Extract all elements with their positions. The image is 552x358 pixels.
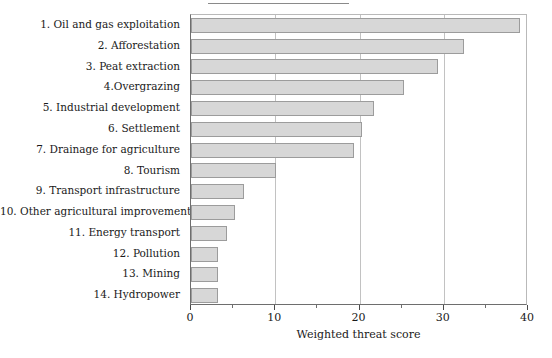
bar-row	[191, 57, 526, 78]
bar-row	[191, 98, 526, 119]
bar-row	[191, 140, 526, 161]
bar-row	[191, 244, 526, 265]
category-label: 4.Overgrazing	[0, 76, 185, 97]
bar	[191, 39, 464, 54]
bar-row	[191, 15, 526, 36]
bar-series	[191, 15, 526, 304]
category-label: 13. Mining	[0, 263, 185, 284]
bar	[191, 267, 218, 282]
bar	[191, 18, 520, 33]
bar	[191, 59, 438, 74]
bar-row	[191, 264, 526, 285]
bar-row	[191, 202, 526, 223]
bar	[191, 80, 404, 95]
category-label: 6. Settlement	[0, 118, 185, 139]
x-tick-major	[190, 305, 191, 310]
category-label: 1. Oil and gas exploitation	[0, 14, 185, 35]
bar	[191, 101, 374, 116]
bar	[191, 247, 218, 262]
bar-row	[191, 77, 526, 98]
category-label: 11. Energy transport	[0, 222, 185, 243]
bar-row	[191, 181, 526, 202]
bar	[191, 163, 276, 178]
bar	[191, 288, 218, 303]
category-axis-labels: 1. Oil and gas exploitation2. Afforestat…	[0, 14, 185, 305]
x-tick-label: 30	[436, 311, 450, 324]
x-tick-label: 40	[520, 311, 534, 324]
plot-area	[190, 14, 527, 305]
category-label: 14. Hydropower	[0, 284, 185, 305]
x-tick-minor	[232, 305, 233, 308]
category-label: 9. Transport infrastructure	[0, 180, 185, 201]
bar-row	[191, 161, 526, 182]
bar	[191, 205, 235, 220]
bar-row	[191, 119, 526, 140]
category-label: 2. Afforestation	[0, 35, 185, 56]
bar-row	[191, 223, 526, 244]
x-tick-major	[359, 305, 360, 310]
category-label: 7. Drainage for agriculture	[0, 139, 185, 160]
x-tick-label: 0	[187, 311, 194, 324]
figure: 1. Oil and gas exploitation2. Afforestat…	[0, 0, 552, 358]
bar	[191, 184, 244, 199]
x-tick-label: 10	[267, 311, 281, 324]
top-rule-decoration	[208, 3, 349, 4]
bar	[191, 122, 362, 137]
bar-row	[191, 285, 526, 306]
x-tick-major	[274, 305, 275, 310]
bar	[191, 226, 227, 241]
category-label: 3. Peat extraction	[0, 56, 185, 77]
x-tick-minor	[401, 305, 402, 308]
category-label: 8. Tourism	[0, 160, 185, 181]
bar	[191, 143, 354, 158]
category-label: 5. Industrial development	[0, 97, 185, 118]
category-label: 10. Other agricultural improvement	[0, 201, 185, 222]
x-tick-major	[443, 305, 444, 310]
x-tick-minor	[485, 305, 486, 308]
x-tick-minor	[316, 305, 317, 308]
x-tick-major	[527, 305, 528, 310]
x-axis-title: Weighted threat score	[190, 328, 527, 341]
x-tick-label: 20	[352, 311, 366, 324]
category-label: 12. Pollution	[0, 243, 185, 264]
bar-row	[191, 36, 526, 57]
